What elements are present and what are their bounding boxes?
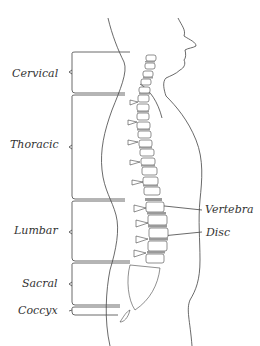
back-outline xyxy=(101,18,125,346)
bracket-lumbar xyxy=(69,201,130,261)
label-vertebra: Vertebra xyxy=(205,204,254,215)
label-lumbar: Lumbar xyxy=(14,225,58,236)
face-profile xyxy=(164,18,196,96)
bracket-sacral xyxy=(69,263,130,305)
bracket-thoracic xyxy=(69,95,125,199)
spine-diagram xyxy=(0,0,260,346)
bracket-coccyx xyxy=(69,307,120,315)
front-outline xyxy=(166,96,202,346)
label-coccyx: Coccyx xyxy=(18,305,58,316)
label-thoracic: Thoracic xyxy=(10,139,59,150)
label-disc: Disc xyxy=(206,227,230,238)
spine-column xyxy=(120,55,168,322)
label-cervical: Cervical xyxy=(12,68,58,79)
label-sacral: Sacral xyxy=(22,278,58,289)
